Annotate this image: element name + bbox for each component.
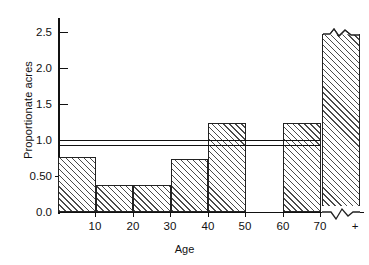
y-tick-label-1-5: 1.5 [12,98,52,110]
y-tick-label-0-50: 0.50 [12,170,52,182]
reference-line-secondary [58,145,320,146]
x-tick-label-10: 10 [80,220,110,232]
x-tick-label-20: 20 [118,220,148,232]
x-tick-label-40: 40 [193,220,223,232]
x-tick-label-30: 30 [155,220,185,232]
y-tick-label-0-0: 0.0 [12,206,52,218]
reference-line-unity [58,140,320,141]
x-tick-mark-50 [245,213,246,217]
bar-60-70 [283,123,321,212]
x-axis-line [58,212,364,213]
x-tick-mark-20 [133,213,134,217]
bar-30-40 [171,159,209,212]
chart-figure: Proportionate acres 2.5 2.0 1.5 1.0 0.50… [0,0,369,265]
bar-40-50 [208,123,246,212]
x-tick-mark-10 [95,213,96,217]
bar-70-plus [322,34,360,212]
y-tick-label-1-0: 1.0 [12,134,52,146]
x-axis-title: Age [0,243,369,255]
plot-area [58,18,364,212]
bar-20-30 [133,185,171,212]
x-tick-mark-30 [170,213,171,217]
y-tick-label-2-0: 2.0 [12,62,52,74]
x-tick-mark-70 [320,213,321,217]
bar-0-10 [58,157,96,212]
x-tick-mark-40 [208,213,209,217]
x-tick-label-60: 60 [268,220,298,232]
x-tick-label-50: 50 [230,220,260,232]
x-tick-label-plus: + [340,220,369,232]
bar-10-20 [96,185,134,212]
x-tick-mark-60 [283,213,284,217]
y-tick-label-2-5: 2.5 [12,26,52,38]
axis-break-bottom-icon [322,206,360,220]
x-tick-label-70: 70 [305,220,335,232]
y-axis-tick-labels: 2.5 2.0 1.5 1.0 0.50 0.0 [8,0,52,265]
axis-break-top-icon [323,28,359,40]
